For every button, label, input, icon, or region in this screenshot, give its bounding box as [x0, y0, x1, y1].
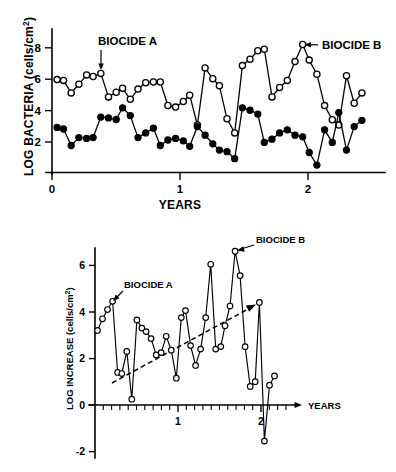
top-y-ticklabel-2: 2 — [35, 136, 41, 148]
top-annotation-biocide-a-arrowhead — [98, 64, 103, 71]
bottom-x-axis-arrowhead — [295, 402, 303, 408]
bottom-x-axis-title: YEARS — [308, 400, 341, 411]
top-annotation-biocide-a-label: BIOCIDE A — [98, 35, 157, 47]
bottom-annotation-biocide-a-label: BIOCIDE A — [124, 279, 173, 290]
top-x-ticklabel-2: 2 — [305, 183, 311, 195]
svg-text:LOG INCREASE (cells/cm2): LOG INCREASE (cells/cm2) — [64, 287, 75, 410]
bottom-x-ticklabels: 1 2 — [175, 415, 264, 427]
bottom-annotation-biocide-b: BIOCIDE B — [237, 234, 305, 252]
top-y-axis-title-paren: ) — [22, 17, 36, 21]
top-annotation-biocide-b: BIOCIDE B — [305, 39, 382, 51]
svg-text:LOG BACTERIA (cells/cm2): LOG BACTERIA (cells/cm2) — [21, 17, 36, 176]
bottom-y-ticklabel-4: 4 — [79, 306, 85, 318]
top-y-ticklabel-6: 6 — [35, 73, 41, 85]
top-y-axis-title: LOG BACTERIA (cells/cm2) — [21, 17, 36, 176]
top-y-ticks — [45, 48, 52, 142]
bottom-annotation-biocide-a: BIOCIDE A — [113, 279, 173, 301]
bottom-y-ticklabel-neg2: -2 — [76, 445, 85, 457]
bottom-y-ticklabel-0: 0 — [79, 399, 85, 411]
top-panel: LOG BACTERIA (cells/cm2) 8 6 4 2 — [21, 17, 385, 212]
top-annotation-biocide-a: BIOCIDE A — [98, 35, 157, 70]
top-y-ticklabel-8: 8 — [35, 42, 42, 54]
bottom-y-ticklabels: 6 4 2 0 -2 — [76, 259, 86, 457]
bottom-y-axis-title: LOG INCREASE (cells/cm2) — [64, 287, 75, 410]
bottom-y-axis-title-main: LOG INCREASE (cells/cm — [64, 294, 75, 410]
bottom-y-axis-title-paren: ) — [64, 287, 75, 290]
top-x-ticklabel-0: 0 — [49, 183, 55, 195]
bottom-y-ticks — [89, 265, 95, 451]
bottom-series-markers — [95, 248, 278, 444]
bottom-panel: LOG INCREASE (cells/cm2) 6 4 2 0 - — [64, 234, 341, 458]
top-x-ticks — [52, 173, 308, 181]
top-y-ticklabel-4: 4 — [35, 105, 42, 117]
bottom-y-ticklabel-2: 2 — [79, 352, 85, 364]
top-x-ticklabel-1: 1 — [177, 183, 184, 195]
top-x-axis-title: YEARS — [159, 198, 201, 212]
top-annotation-biocide-b-label: BIOCIDE B — [322, 39, 381, 51]
figure-container: LOG BACTERIA (cells/cm2) 8 6 4 2 — [0, 0, 396, 472]
top-x-ticklabels: 0 1 2 — [49, 183, 311, 195]
bottom-trend-arrowhead — [246, 305, 256, 312]
two-panel-line-chart: LOG BACTERIA (cells/cm2) 8 6 4 2 — [0, 0, 396, 472]
bottom-y-ticklabel-6: 6 — [79, 259, 85, 271]
bottom-annotation-biocide-b-label: BIOCIDE B — [256, 234, 305, 245]
bottom-x-ticklabel-1: 1 — [175, 415, 181, 427]
